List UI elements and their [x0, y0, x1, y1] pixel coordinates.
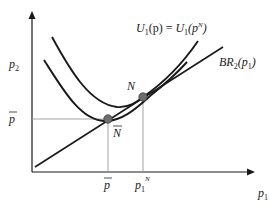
- indifference-curve-label: U1(p) = U1(pN): [136, 21, 207, 37]
- label-nash-N: N: [126, 79, 136, 93]
- svg-text:p: p: [103, 178, 110, 192]
- y-tick-pbar: p: [8, 112, 17, 126]
- best-response-line: [35, 47, 223, 167]
- svg-text:N: N: [112, 126, 122, 140]
- x-tick-pbar: p: [103, 178, 112, 192]
- x-axis-label: p1: [257, 186, 268, 202]
- best-response-label: BR2(p1): [219, 55, 256, 71]
- point-collusive-N-bar: [104, 115, 112, 123]
- x-axis-arrow-icon: [247, 169, 255, 176]
- price-competition-diagram: p2 p1 p p p1N N N U1(p) = U1(pN) BR2(p1): [0, 0, 275, 211]
- svg-text:p: p: [8, 112, 15, 126]
- indifference-curve-lower: [44, 60, 187, 121]
- point-nash-N: [139, 93, 147, 101]
- label-collusive-N-bar: N: [112, 126, 122, 140]
- x-tick-p1N: p1N: [134, 175, 150, 194]
- y-axis-label: p2: [8, 57, 19, 73]
- y-axis-arrow-icon: [29, 11, 36, 19]
